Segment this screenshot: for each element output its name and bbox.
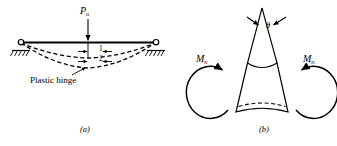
theta-arrow-right <box>274 17 287 25</box>
moment-arc-left <box>186 66 228 118</box>
plastic-hinge-leader <box>72 68 86 76</box>
theta-arrow-left <box>247 17 259 25</box>
load-label-pu: Pu <box>80 6 89 17</box>
rotation-angle-label-theta: θ <box>266 21 270 30</box>
panel-a-beam-diagram <box>11 19 166 75</box>
deflection-label-1: 1 <box>99 45 103 53</box>
plastic-hinge-label: Plastic hinge <box>30 76 76 85</box>
wedge-edge-right <box>262 8 277 63</box>
caption-panel-b: (b) <box>259 125 269 134</box>
moment-arc-right <box>296 66 337 118</box>
moment-label-left-mn: Mn <box>196 54 207 65</box>
wedge-edge-left <box>248 8 263 63</box>
pin-left-circle <box>18 40 23 45</box>
pin-left-hatching <box>11 51 30 57</box>
figure-vector-graphic <box>0 0 337 146</box>
moment-label-right-mn: Mn <box>303 54 314 65</box>
pin-right-hatching <box>146 51 165 57</box>
pin-right-circle <box>153 40 158 45</box>
caption-panel-a: (a) <box>80 125 90 134</box>
figure-container: Pu 1 2 Plastic hinge (a) θ Mn Mn (b) <box>0 0 337 146</box>
deflection-label-2: 2 <box>99 55 103 63</box>
